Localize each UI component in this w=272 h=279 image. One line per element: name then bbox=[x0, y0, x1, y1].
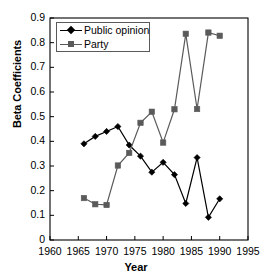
data-point-marker bbox=[172, 107, 177, 112]
legend-label-public-opinion: Public opinion bbox=[82, 25, 149, 36]
data-point-marker bbox=[104, 202, 109, 207]
legend-square-marker-icon bbox=[60, 39, 82, 50]
y-tick-label: 0.3 bbox=[17, 160, 45, 171]
data-point-marker bbox=[93, 202, 98, 207]
y-tick-label: 0.7 bbox=[17, 61, 45, 72]
data-point-marker bbox=[183, 31, 188, 36]
y-tick-label: 0.9 bbox=[17, 12, 45, 23]
x-tick-label: 1995 bbox=[231, 246, 265, 257]
data-point-marker bbox=[127, 150, 132, 155]
legend-diamond-marker-icon bbox=[60, 25, 82, 36]
y-tick-label: 0.5 bbox=[17, 111, 45, 122]
data-point-marker bbox=[115, 163, 120, 168]
data-point-marker bbox=[217, 33, 222, 38]
y-tick-label: 0 bbox=[17, 234, 45, 245]
data-point-marker bbox=[138, 120, 143, 125]
x-axis-title: Year bbox=[0, 261, 272, 273]
y-tick-label: 0.1 bbox=[17, 209, 45, 220]
data-point-marker bbox=[194, 106, 199, 111]
data-point-marker bbox=[206, 30, 211, 35]
y-tick-label: 0.2 bbox=[17, 185, 45, 196]
legend-item-public-opinion: Public opinion bbox=[60, 24, 149, 37]
beta-coefficients-line-chart: Beta Coefficients Year 00.10.20.30.40.50… bbox=[0, 0, 272, 279]
data-point-marker bbox=[149, 109, 154, 114]
y-tick-label: 0.8 bbox=[17, 37, 45, 48]
legend-label-party: Party bbox=[82, 39, 109, 50]
legend-item-party: Party bbox=[60, 38, 109, 51]
data-point-marker bbox=[81, 195, 86, 200]
data-point-marker bbox=[160, 140, 165, 145]
chart-legend: Public opinion Party bbox=[56, 22, 150, 52]
y-tick-label: 0.6 bbox=[17, 86, 45, 97]
y-tick-label: 0.4 bbox=[17, 135, 45, 146]
